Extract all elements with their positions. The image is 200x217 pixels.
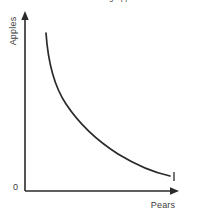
x-axis-arrowhead — [170, 187, 179, 194]
y-axis-label: Apples — [8, 9, 18, 53]
plot-canvas — [0, 0, 200, 217]
curve-apples-pears — [46, 33, 170, 176]
y-axis-arrowhead — [21, 11, 28, 20]
origin-label: 0 — [13, 182, 18, 192]
chart-figure: Sketch the curve showing Apples and Pear… — [0, 0, 200, 217]
x-axis-label: Pears — [141, 200, 185, 210]
